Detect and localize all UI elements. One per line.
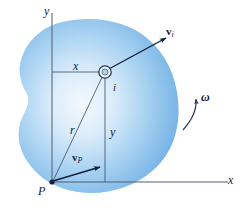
- x-axis-label: x: [228, 174, 233, 186]
- v-i-vector-label: vi: [166, 26, 174, 39]
- v-p-subscript: P: [78, 156, 83, 165]
- r-radius-label: r: [70, 124, 75, 136]
- omega-curved-arrow: [183, 99, 196, 130]
- v-p-vector-label: vP: [72, 152, 82, 165]
- point-p-marker: [49, 179, 54, 184]
- particle-core-dot: [102, 69, 108, 75]
- x-offset-label: x: [73, 60, 78, 72]
- rigid-body-velocity-diagram: [0, 0, 240, 223]
- omega-label: ω: [201, 91, 210, 103]
- particle-i-label: i: [113, 82, 116, 93]
- point-p-label: P: [38, 185, 45, 197]
- v-i-subscript: i: [172, 30, 174, 39]
- y-axis-label: y: [44, 5, 49, 17]
- y-offset-label: y: [110, 126, 115, 138]
